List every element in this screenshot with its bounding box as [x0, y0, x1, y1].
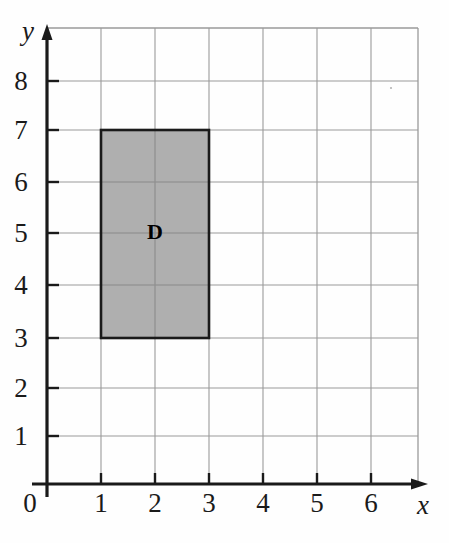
x-axis-ticks: [101, 473, 371, 484]
coordinate-plane-figure: 8 7 6 5 4 3 2 1 0 1 2 3 4 5 6 y x D: [0, 0, 449, 543]
arrow-right-icon: [411, 479, 428, 490]
region-label-d: D: [147, 221, 163, 243]
arrow-up-icon: [42, 24, 53, 40]
y-tick-label-1: 1: [6, 423, 36, 450]
y-tick-label-6: 6: [6, 169, 36, 196]
x-tick-label-5: 5: [302, 490, 332, 517]
origin-label: 0: [16, 490, 44, 517]
x-axis-label: x: [417, 492, 429, 519]
y-tick-label-8: 8: [6, 68, 36, 95]
y-axis-label: y: [22, 18, 34, 45]
x-tick-label-4: 4: [248, 490, 278, 517]
x-tick-label-2: 2: [140, 490, 170, 517]
y-axis-ticks: [47, 81, 59, 436]
y-tick-label-7: 7: [6, 117, 36, 144]
x-tick-label-1: 1: [86, 490, 116, 517]
scan-speck: [390, 87, 392, 89]
y-axis: [42, 24, 53, 497]
y-tick-label-5: 5: [6, 220, 36, 247]
x-tick-label-3: 3: [194, 490, 224, 517]
plot-canvas: [0, 0, 449, 543]
y-tick-label-4: 4: [6, 272, 36, 299]
y-tick-label-2: 2: [6, 375, 36, 402]
x-tick-label-6: 6: [356, 490, 386, 517]
y-tick-label-3: 3: [6, 325, 36, 352]
